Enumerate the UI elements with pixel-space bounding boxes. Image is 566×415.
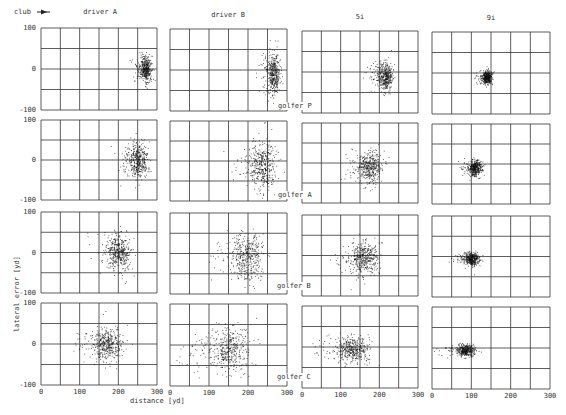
scatter-panel-golfer-c-5i [302,306,418,388]
scatter-panel-golfer-p-driver-a [41,28,157,110]
y-tick-label: -100 [14,106,36,114]
x-tick-label: 0 [160,389,180,397]
scatter-panel-golfer-a-driver-a [41,120,157,200]
scatter-panel-golfer-c-9i [432,307,550,389]
scatter-panel-golfer-p-driver-b [170,29,287,111]
data-points [474,66,495,87]
x-tick-label: 200 [108,388,128,396]
data-points [223,122,284,198]
scatter-panel-golfer-p-9i [432,32,550,114]
y-tick-label: 100 [14,208,36,216]
x-tick-label: 0 [292,391,312,399]
y-tick-label: -100 [14,196,36,204]
x-tick-label: 100 [461,392,481,400]
arrow-left-icon [35,9,51,15]
column-title-driver-a: driver A [60,8,140,16]
club-legend: club [14,8,51,16]
y-tick-label: 100 [14,24,36,32]
data-points [130,52,156,89]
grid-lines [170,213,287,294]
club-label: club [14,8,31,16]
x-tick-label: 0 [31,388,51,396]
scatter-panel-golfer-b-driver-b [170,213,287,294]
y-tick-label: 0 [14,249,36,257]
data-points [449,251,484,276]
y-tick-label: 0 [14,156,36,164]
scatter-panel-golfer-b-9i [432,216,550,297]
grid-lines [302,31,418,113]
y-tick-label: -100 [14,289,36,297]
data-points [313,333,380,368]
y-tick-label: 100 [14,116,36,124]
data-points [209,229,270,289]
column-title-driver-b: driver B [188,11,268,19]
x-tick-label: 0 [422,392,442,400]
scatter-panel-golfer-a-9i [432,124,550,204]
x-tick-label: 100 [70,388,90,396]
data-points [73,311,132,369]
x-tick-label: 200 [369,391,389,399]
data-points [434,343,482,359]
scatter-panel-golfer-b-driver-a [41,212,157,293]
grid-lines [432,124,550,204]
column-title-5i: 5i [320,13,400,21]
scatter-panel-golfer-a-5i [302,123,418,203]
x-tick-label: 100 [199,389,219,397]
scatter-panel-golfer-c-driver-a [41,303,157,385]
scatter-panel-golfer-a-driver-b [170,121,287,201]
x-tick-label: 200 [501,392,521,400]
column-title-9i: 9i [451,14,531,22]
y-tick-label: 0 [14,65,36,73]
scatter-panel-golfer-p-5i [302,31,418,113]
grid-lines [302,123,418,203]
grid-lines [432,307,550,389]
row-label-golfer-c: golfer C [276,373,312,381]
x-tick-label: 300 [540,392,560,400]
x-tick-label: 100 [331,391,351,399]
row-label-golfer-a: golfer A [277,191,313,199]
grid-lines [432,216,550,297]
y-tick-label: 0 [14,340,36,348]
row-label-golfer-p: golfer P [277,102,313,110]
data-points [87,226,136,284]
scatter-panel-golfer-c-driver-b [170,304,287,386]
row-label-golfer-b: golfer B [276,282,312,290]
x-tick-label: 200 [238,389,258,397]
data-points [341,144,390,191]
grid-lines [170,304,287,386]
grid-lines [41,212,157,293]
scatter-panel-golfer-b-5i [302,215,418,296]
data-points [330,234,383,291]
x-axis-label: distance [yd] [130,397,185,405]
y-tick-label: 100 [14,299,36,307]
